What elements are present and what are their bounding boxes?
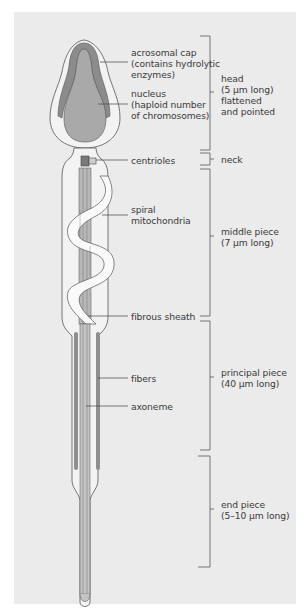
label-region-neck: neck	[221, 154, 242, 165]
label-spiral-mitochondria: spiral mitochondria	[131, 204, 191, 226]
axoneme	[80, 324, 90, 594]
label-axoneme: axoneme	[131, 401, 173, 412]
bracket-end-piece	[198, 456, 210, 567]
centriole-proximal	[81, 156, 89, 166]
bracket-principal-piece	[200, 321, 210, 450]
label-centrioles: centrioles	[131, 155, 175, 166]
centriole-distal	[89, 158, 96, 164]
label-nucleus: nucleus (haploid number of chromosomes)	[131, 88, 209, 121]
bracket-neck	[200, 153, 210, 165]
label-acrosomal-cap: acrosomal cap (contains hydrolytic enzym…	[131, 47, 220, 80]
label-fibrous-sheath: fibrous sheath	[131, 311, 195, 322]
label-region-end-piece: end piece (5–10 µm long)	[221, 499, 289, 521]
fiber-left	[74, 332, 78, 470]
bracket-middle-piece	[200, 169, 210, 316]
label-fibers: fibers	[131, 373, 156, 384]
label-region-middle-piece: middle piece (7 µm long)	[221, 226, 279, 248]
label-region-head: head (5 µm long) flattened and pointed	[221, 73, 275, 117]
fiber-right	[96, 332, 100, 470]
label-region-principal-piece: principal piece (40 µm long)	[221, 367, 287, 389]
